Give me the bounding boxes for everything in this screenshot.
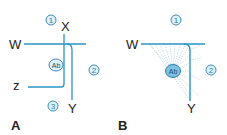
- svg-text:Ab: Ab: [52, 62, 61, 69]
- w-label: W: [9, 37, 22, 52]
- marker-2: 2: [89, 65, 99, 75]
- panel-b: W Y 1 2 Ab B: [118, 15, 216, 133]
- svg-text:2: 2: [92, 66, 97, 75]
- y-label: Y: [68, 101, 77, 116]
- svg-text:3: 3: [51, 102, 56, 111]
- y-label: Y: [187, 101, 196, 116]
- x-label: X: [61, 19, 70, 34]
- w-label: W: [126, 37, 139, 52]
- marker-3: 3: [48, 101, 58, 111]
- svg-text:1: 1: [174, 16, 179, 25]
- panel-a: W X Y z 1 2 3 Ab A: [9, 15, 99, 133]
- ab-marker: Ab: [49, 59, 63, 71]
- ab-marker: Ab: [166, 65, 181, 78]
- diagram-canvas: W X Y z 1 2 3 Ab A: [0, 0, 227, 135]
- svg-text:Ab: Ab: [169, 68, 178, 75]
- y-line: [67, 44, 72, 100]
- panel-a-label: A: [11, 118, 21, 133]
- panel-b-label: B: [118, 118, 127, 133]
- marker-1: 1: [46, 15, 56, 25]
- svg-text:1: 1: [49, 16, 54, 25]
- z-label: z: [13, 78, 20, 93]
- marker-2: 2: [206, 65, 216, 75]
- y-line: [184, 44, 190, 101]
- svg-text:2: 2: [209, 66, 214, 75]
- marker-1: 1: [171, 15, 181, 25]
